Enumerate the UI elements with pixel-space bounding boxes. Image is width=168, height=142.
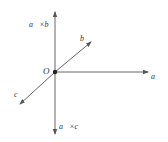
label-c: c⃗ [14,90,24,99]
label-a-cross-b: a⃗×b⃗ [29,20,55,29]
vector-diagram: O a⃗×b⃗ b⃗ a⃗ c⃗ a⃗×c⃗ [0,0,168,142]
label-a-cross-c: a⃗×c⃗ [59,122,84,131]
vector-c [20,72,55,104]
origin-point [53,70,57,74]
label-b: b⃗ [80,34,90,43]
vector-b [55,42,91,72]
origin-label: O [43,66,50,76]
label-a: a⃗ [151,72,161,81]
